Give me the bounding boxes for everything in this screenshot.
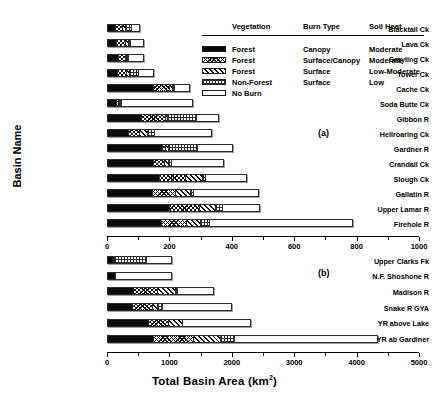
bar-segment-forest_canopy bbox=[108, 304, 133, 310]
bar-segment-forest_canopy bbox=[108, 160, 154, 166]
bar-segment-no_burn bbox=[155, 130, 210, 136]
y-axis-label: Madison R bbox=[326, 288, 429, 297]
bar-a-11 bbox=[107, 189, 259, 197]
bar-b-4 bbox=[107, 319, 251, 327]
x-tick-label-a-1: 200 bbox=[143, 242, 195, 251]
bar-segment-no_burn bbox=[147, 257, 171, 263]
bar-segment-no_burn bbox=[197, 115, 218, 121]
x-tick-a-400 bbox=[232, 237, 233, 241]
x-tick-b-500 bbox=[138, 353, 139, 356]
legend-swatch-cross-hatch-fine bbox=[202, 57, 226, 63]
bar-segment-nonforest_surface bbox=[130, 70, 140, 76]
bar-segment-no_burn bbox=[172, 160, 223, 166]
bar-segment-no_burn bbox=[116, 273, 170, 279]
x-tick-a-300 bbox=[201, 237, 202, 240]
bar-segment-nonforest_surface bbox=[168, 115, 197, 121]
bar-segment-forest_canopy bbox=[108, 288, 134, 294]
bar-segment-forest_surface bbox=[186, 175, 203, 181]
bar-b-5 bbox=[107, 335, 378, 343]
bar-segment-forest_surface_canopy bbox=[154, 85, 171, 91]
y-axis-label: Gallatin R bbox=[326, 190, 429, 199]
bar-segment-nonforest_surface bbox=[221, 336, 235, 342]
legend-cell-1-1: Surface/Canopy bbox=[303, 56, 360, 65]
bar-segment-forest_canopy bbox=[108, 257, 115, 263]
bar-segment-nonforest_surface bbox=[216, 205, 224, 211]
bar-segment-forest_canopy bbox=[108, 205, 170, 211]
y-axis-label: Upper Clarks Fk bbox=[326, 257, 429, 266]
bar-segment-forest_surface bbox=[187, 220, 201, 226]
bar-segment-forest_surface_canopy bbox=[154, 336, 194, 342]
bar-segment-no_burn bbox=[210, 220, 352, 226]
bar-segment-forest_surface bbox=[194, 336, 221, 342]
bar-segment-forest_surface_canopy bbox=[170, 205, 201, 211]
bar-a-1 bbox=[107, 39, 144, 47]
legend-swatch-solid-black bbox=[202, 46, 226, 52]
legend-divider bbox=[202, 35, 424, 36]
legend-swatch-diagonal-hatch bbox=[202, 68, 226, 74]
bar-segment-no_burn bbox=[163, 304, 232, 310]
x-tick-b-4000 bbox=[357, 353, 358, 357]
bar-segment-forest_surface_canopy bbox=[134, 288, 157, 294]
bar-segment-forest_canopy bbox=[108, 130, 129, 136]
bar-segment-no_burn bbox=[235, 336, 377, 342]
bar-segment-forest_surface_canopy bbox=[117, 40, 125, 46]
y-axis-title: Basin Name bbox=[11, 111, 23, 201]
bar-segment-nonforest_surface bbox=[191, 190, 193, 196]
bar-a-12 bbox=[107, 204, 260, 212]
bar-segment-no_burn bbox=[122, 100, 192, 106]
bar-segment-forest_surface_canopy bbox=[153, 190, 176, 196]
legend-cell-0-2: Moderate bbox=[369, 45, 402, 54]
x-tick-label-a-3: 600 bbox=[268, 242, 320, 251]
bar-segment-no_burn bbox=[131, 40, 143, 46]
bar-segment-nonforest_surface bbox=[176, 288, 178, 294]
x-tick-label-b-2: 2000 bbox=[206, 358, 258, 367]
bar-segment-forest_canopy bbox=[108, 145, 163, 151]
legend-cell-2-0: Forest bbox=[232, 67, 255, 76]
bar-b-0 bbox=[107, 256, 172, 264]
bar-segment-forest_canopy bbox=[108, 220, 162, 226]
legend-header-2: Soil Heat bbox=[369, 22, 402, 31]
bar-segment-forest_surface_canopy bbox=[162, 220, 187, 226]
bar-segment-forest_surface_canopy bbox=[142, 115, 167, 121]
legend-header-1: Burn Type bbox=[303, 22, 340, 31]
bar-segment-forest_canopy bbox=[108, 85, 154, 91]
bar-segment-forest_surface bbox=[176, 190, 191, 196]
legend-header-0: Vegetation bbox=[232, 22, 270, 31]
bar-segment-nonforest_surface bbox=[148, 130, 156, 136]
bar-segment-nonforest_surface bbox=[158, 304, 162, 310]
bar-segment-forest_canopy bbox=[108, 336, 154, 342]
bar-segment-no_burn bbox=[194, 190, 259, 196]
x-tick-b-1500 bbox=[201, 353, 202, 356]
bar-a-2 bbox=[107, 54, 144, 62]
x-tick-a-900 bbox=[388, 237, 389, 240]
bar-a-8 bbox=[107, 144, 233, 152]
x-tick-label-b-5: 5000 bbox=[393, 358, 434, 367]
x-tick-label-b-4: 4000 bbox=[331, 358, 383, 367]
bar-segment-forest_canopy bbox=[108, 115, 142, 121]
bar-segment-forest_surface bbox=[158, 288, 176, 294]
bar-segment-no_burn bbox=[206, 175, 246, 181]
bar-a-4 bbox=[107, 84, 190, 92]
y-axis-label: Crandall Ck bbox=[326, 160, 429, 169]
legend-cell-3-0: Non-Forest bbox=[232, 78, 272, 87]
x-tick-b-2000 bbox=[232, 353, 233, 357]
y-axis-label: N.F. Shoshone R bbox=[326, 272, 429, 281]
bar-segment-forest_surface_canopy bbox=[154, 160, 165, 166]
legend-cell-1-0: Forest bbox=[232, 56, 255, 65]
y-axis-label: YR above Lake bbox=[326, 319, 429, 328]
x-tick-label-b-0: 0 bbox=[81, 358, 133, 367]
bar-segment-nonforest_surface bbox=[201, 220, 210, 226]
bar-segment-forest_surface_canopy bbox=[160, 175, 186, 181]
bar-a-9 bbox=[107, 159, 224, 167]
x-tick-b-3500 bbox=[325, 353, 326, 356]
legend-cell-0-0: Forest bbox=[232, 45, 255, 54]
legend-cell-2-1: Surface bbox=[303, 67, 331, 76]
x-tick-label-a-2: 400 bbox=[206, 242, 258, 251]
bar-a-7 bbox=[107, 129, 212, 137]
y-axis-label: Upper Lamar R bbox=[326, 205, 429, 214]
bar-segment-forest_canopy bbox=[108, 70, 118, 76]
x-axis-title-tail: ) bbox=[273, 375, 277, 387]
bar-a-0 bbox=[107, 24, 140, 32]
bar-segment-forest_canopy bbox=[108, 320, 149, 326]
bar-segment-no_burn bbox=[198, 145, 232, 151]
